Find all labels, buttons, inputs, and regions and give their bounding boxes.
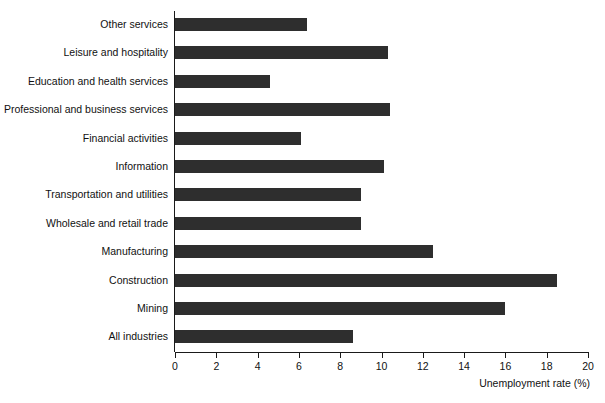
x-axis-tick-label: 12 [417, 360, 429, 372]
bar [175, 132, 301, 145]
bar-row: Other services [0, 11, 605, 39]
bar [175, 46, 388, 59]
bar [175, 330, 353, 343]
category-label: Construction [109, 271, 168, 290]
category-label: All industries [108, 327, 168, 346]
x-axis-title: Unemployment rate (%) [479, 377, 590, 389]
x-axis-tick [216, 353, 217, 358]
bar-row: All industries [0, 323, 605, 351]
x-axis-tick-label: 2 [213, 360, 219, 372]
category-label: Other services [100, 15, 168, 34]
bar-row: Financial activities [0, 125, 605, 153]
bar-row: Information [0, 153, 605, 181]
bar [175, 274, 557, 287]
category-label: Financial activities [83, 129, 168, 148]
x-axis-tick [464, 353, 465, 358]
x-axis-tick [299, 353, 300, 358]
bar-row: Construction [0, 267, 605, 295]
category-label: Manufacturing [101, 242, 168, 261]
bar [175, 245, 433, 258]
bar [175, 103, 390, 116]
x-axis-tick-label: 4 [255, 360, 261, 372]
category-label: Mining [137, 299, 168, 318]
bar [175, 160, 384, 173]
category-label: Information [115, 157, 168, 176]
bar [175, 188, 361, 201]
category-label: Wholesale and retail trade [46, 214, 168, 233]
category-label: Education and health services [28, 72, 168, 91]
bar-row: Wholesale and retail trade [0, 210, 605, 238]
bar [175, 18, 307, 31]
bar [175, 75, 270, 88]
x-axis-tick-label: 20 [582, 360, 594, 372]
category-label: Professional and business services [4, 100, 168, 119]
bar-row: Manufacturing [0, 238, 605, 266]
x-axis-tick [258, 353, 259, 358]
x-axis-tick [382, 353, 383, 358]
bar-chart-figure: Other servicesLeisure and hospitalityEdu… [0, 0, 605, 403]
category-label: Transportation and utilities [45, 185, 168, 204]
x-axis-tick-label: 10 [376, 360, 388, 372]
bar [175, 302, 505, 315]
x-axis-tick-label: 8 [337, 360, 343, 372]
x-axis-tick-label: 6 [296, 360, 302, 372]
x-axis-tick [340, 353, 341, 358]
x-axis-tick [505, 353, 506, 358]
bar-row: Education and health services [0, 68, 605, 96]
x-axis-tick [547, 353, 548, 358]
x-axis-tick-label: 18 [541, 360, 553, 372]
bar-row: Mining [0, 295, 605, 323]
x-axis-tick [423, 353, 424, 358]
x-axis-tick-label: 16 [500, 360, 512, 372]
category-label: Leisure and hospitality [64, 43, 168, 62]
x-axis-tick-label: 14 [458, 360, 470, 372]
bar-row: Leisure and hospitality [0, 39, 605, 67]
x-axis-tick [175, 353, 176, 358]
x-axis-tick [588, 353, 589, 358]
x-axis-tick-label: 0 [172, 360, 178, 372]
bar [175, 217, 361, 230]
bar-row: Professional and business services [0, 96, 605, 124]
bar-row: Transportation and utilities [0, 181, 605, 209]
